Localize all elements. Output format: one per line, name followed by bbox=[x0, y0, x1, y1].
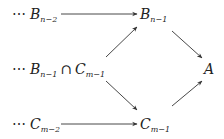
node-a: A bbox=[204, 61, 214, 77]
arrow-intersection-to-bn1 bbox=[106, 27, 137, 57]
ellipsis: ⋯ bbox=[12, 116, 26, 132]
subscript: m−2 bbox=[41, 125, 60, 134]
node-b-n-minus-2: ⋯Bn−2 bbox=[12, 6, 57, 28]
node-c-m-minus-2: ⋯Cm−2 bbox=[12, 116, 60, 138]
symbol: C bbox=[140, 116, 151, 132]
arrow-intersection-to-cm1 bbox=[106, 81, 137, 110]
node-b-n-minus-1: Bn−1 bbox=[140, 6, 167, 28]
intersection-operator: ∩ bbox=[60, 61, 72, 77]
arrow-bn1-to-a bbox=[172, 31, 202, 58]
node-c-m-minus-1: Cm−1 bbox=[140, 116, 170, 138]
subscript: m−1 bbox=[151, 125, 170, 134]
symbol-right: C bbox=[75, 61, 86, 77]
subscript-left: n−1 bbox=[40, 70, 57, 79]
subscript-right: m−1 bbox=[86, 70, 105, 79]
symbol: A bbox=[204, 61, 214, 77]
ellipsis: ⋯ bbox=[12, 6, 26, 22]
ellipsis: ⋯ bbox=[12, 61, 26, 77]
symbol: B bbox=[30, 6, 40, 22]
arrow-cm1-to-a bbox=[172, 81, 202, 106]
subscript: n−1 bbox=[150, 15, 167, 24]
symbol-left: B bbox=[30, 61, 40, 77]
symbol: C bbox=[30, 116, 41, 132]
node-intersection: ⋯Bn−1∩Cm−1 bbox=[12, 61, 105, 83]
symbol: B bbox=[140, 6, 150, 22]
subscript: n−2 bbox=[40, 15, 57, 24]
